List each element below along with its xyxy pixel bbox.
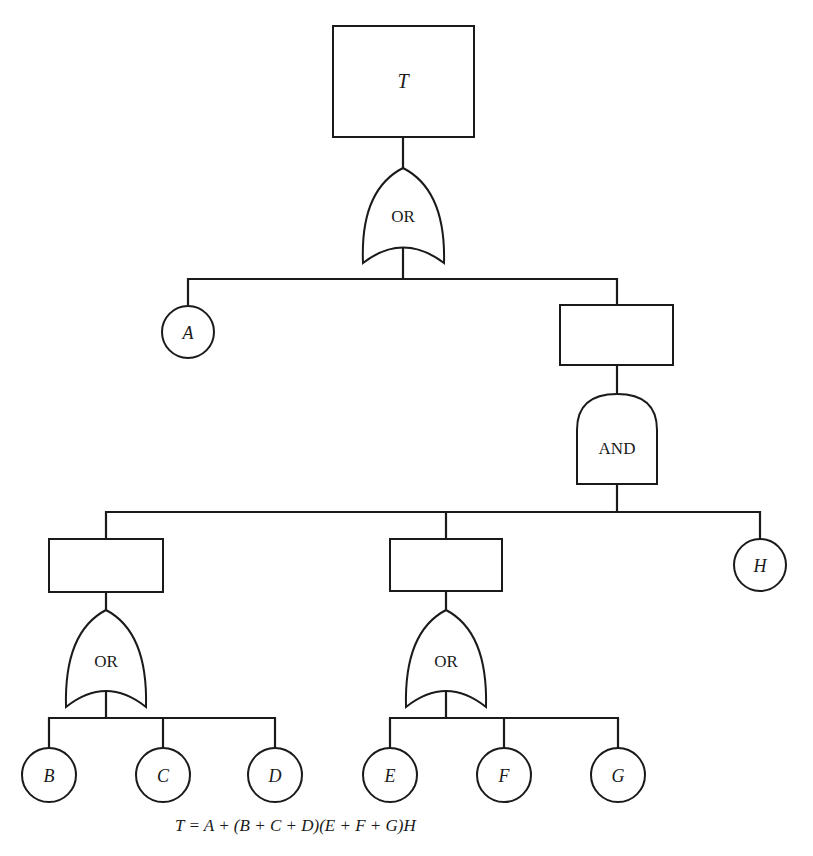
basic-event-a-label: A [182, 323, 195, 343]
basic-event-g-label: G [612, 766, 625, 786]
basic-event-e-label: E [384, 766, 396, 786]
basic-event-f: F [477, 748, 531, 802]
basic-event-d-label: D [268, 766, 282, 786]
basic-event-g: G [591, 748, 645, 802]
top-event-box: T [333, 26, 474, 137]
basic-event-f-label: F [498, 766, 511, 786]
boolean-equation: T = A + (B + C + D)(E + F + G)H [175, 816, 417, 835]
intermediate-event-left [49, 539, 163, 592]
or-gate-left-label: OR [94, 652, 118, 671]
or-gate-top-label: OR [391, 207, 415, 226]
or-gate-middle-label: OR [434, 652, 458, 671]
basic-event-c: C [136, 748, 190, 802]
basic-event-h: H [734, 539, 786, 591]
basic-event-b-label: B [44, 766, 55, 786]
top-event-label: T [397, 70, 410, 92]
and-gate-label: AND [599, 439, 636, 458]
basic-event-d: D [248, 748, 302, 802]
basic-event-h-label: H [753, 556, 768, 576]
fault-tree-diagram: T OR A AND H OR OR [0, 0, 813, 856]
intermediate-event-middle [390, 539, 502, 591]
intermediate-event-right [560, 305, 673, 365]
basic-event-a: A [162, 306, 214, 358]
basic-event-c-label: C [157, 766, 170, 786]
basic-event-b: B [22, 748, 76, 802]
basic-event-e: E [363, 748, 417, 802]
and-gate: AND [577, 394, 657, 484]
